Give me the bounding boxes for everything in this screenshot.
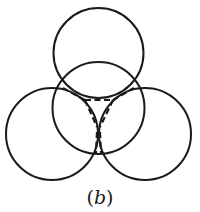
circles-group	[6, 8, 191, 180]
three-circle-diagram	[0, 0, 200, 212]
caption-letter: b	[94, 186, 106, 208]
figure-caption: (b)	[0, 186, 200, 208]
caption-close-paren: )	[106, 186, 113, 208]
dash-v-left	[85, 100, 97, 127]
top-circle	[54, 8, 144, 98]
dash-v-right	[100, 100, 113, 127]
caption-open-paren: (	[86, 186, 93, 208]
